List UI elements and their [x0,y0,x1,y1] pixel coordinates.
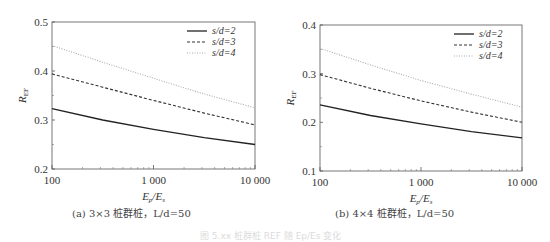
series-line [320,75,522,123]
legend-label: s/d=3 [479,39,502,50]
x-tick-label: 1 000 [141,174,166,186]
legend-label: s/d=3 [212,36,235,47]
x-tick-label: 10 000 [507,176,538,188]
line-chart-a: 0.20.30.40.51001 00010 000Ep/EsREFs/d=2s… [0,0,275,215]
y-tick-label: 0.4 [34,65,48,77]
legend-label: s/d=2 [479,28,502,39]
series-line [52,109,255,145]
caption-b: (b) 4×4 桩群桩，L/d=50 [335,205,454,220]
line-chart-b: 0.10.20.30.41001 00010 000Ep/EsREFs/d=2s… [275,0,550,215]
y-tick-label: 0.3 [34,114,48,126]
y-axis-label: REF [16,88,30,104]
y-tick-label: 0.3 [302,68,316,80]
y-tick-label: 0.5 [34,16,48,28]
y-axis-label: REF [284,90,298,106]
x-tick-label: 1 000 [409,176,434,188]
x-tick-label: 100 [44,174,61,186]
series-line [320,105,522,138]
legend-label: s/d=4 [479,50,502,61]
x-axis-label: Ep/Es [409,192,433,206]
caption-a: (a) 3×3 桩群桩，L/d=50 [72,205,191,220]
figure-caption: 图 5.xx 桩群桩 REF 随 Ep/Es 变化 [200,229,341,242]
y-tick-label: 0.4 [302,19,316,31]
x-axis-label: Ep/Es [141,190,165,204]
x-tick-label: 10 000 [240,174,271,186]
x-tick-label: 100 [312,176,329,188]
y-tick-label: 0.2 [302,116,316,128]
legend-label: s/d=2 [212,25,235,36]
legend-label: s/d=4 [212,47,235,58]
